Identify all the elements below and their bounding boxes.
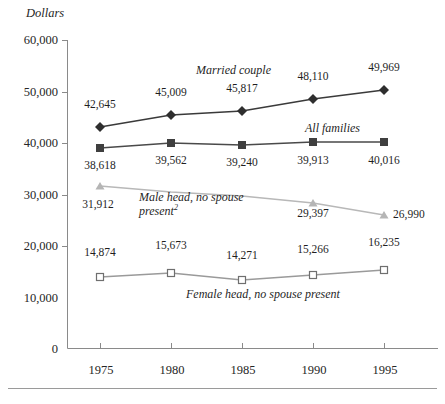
marker-filled-square [309, 138, 317, 146]
marker-filled-square [238, 141, 246, 149]
y-axis-ticks [62, 41, 68, 247]
chart-container: Dollars 60,000 50,000 40,000 30,000 20,0… [0, 0, 445, 404]
value-label-allfamilies-1980: 39,562 [133, 154, 209, 167]
x-tick-label-1985: 1985 [213, 363, 273, 377]
series-annotation-male-head: Male head, no spousepresent2 [139, 191, 259, 219]
value-label-married-1980: 45,009 [133, 86, 209, 99]
y-tick-label-0: 0 [0, 342, 58, 356]
value-label-femalehead-1990: 15,266 [275, 243, 351, 256]
value-label-femalehead-1995: 16,235 [346, 236, 422, 249]
y-tick-label-30000: 30,000 [0, 188, 58, 202]
x-axis-ticks [101, 343, 385, 349]
marker-open-square [310, 272, 317, 279]
marker-filled-diamond [166, 110, 176, 120]
marker-filled-diamond [379, 85, 389, 95]
value-label-allfamilies-1990: 39,913 [275, 154, 351, 167]
value-label-married-1985: 45,817 [204, 82, 280, 95]
y-tick-label-40000: 40,000 [0, 136, 58, 150]
series-female-head [97, 267, 388, 284]
value-label-allfamilies-1975: 38,618 [62, 159, 138, 172]
y-axis-title: Dollars [26, 6, 64, 20]
series-annotation-all-families: All families [305, 122, 360, 135]
y-tick-label-60000: 60,000 [0, 33, 58, 47]
value-label-allfamilies-1995: 40,016 [346, 154, 422, 167]
x-tick-label-1975: 1975 [71, 363, 131, 377]
value-label-femalehead-1975: 14,874 [62, 246, 138, 259]
value-label-malehead-1990: 29,397 [275, 207, 351, 220]
marker-filled-diamond [95, 122, 105, 132]
marker-filled-square [167, 139, 175, 147]
marker-open-square [168, 270, 175, 277]
x-tick-label-1995: 1995 [355, 363, 415, 377]
value-label-femalehead-1985: 14,271 [204, 249, 280, 262]
series-annotation-married-couple: Married couple [196, 64, 271, 77]
marker-filled-diamond [237, 106, 247, 116]
series-annotation-male-head-footnote: 2 [174, 203, 178, 212]
y-tick-label-10000: 10,000 [0, 291, 58, 305]
x-tick-label-1990: 1990 [284, 363, 344, 377]
value-label-femalehead-1980: 15,673 [133, 239, 209, 252]
marker-filled-diamond [308, 94, 318, 104]
series-annotation-female-head: Female head, no spouse present [186, 288, 340, 301]
value-label-malehead-1995: 26,990 [393, 208, 425, 221]
marker-filled-square [96, 144, 104, 152]
value-label-married-1975: 42,645 [62, 98, 138, 111]
series-all-families [96, 138, 388, 152]
y-tick-label-50000: 50,000 [0, 85, 58, 99]
marker-filled-square [380, 138, 388, 146]
marker-open-square [381, 267, 388, 274]
marker-open-square [239, 277, 246, 284]
value-label-malehead-1975: 31,912 [60, 198, 136, 211]
value-label-married-1990: 48,110 [275, 70, 351, 83]
y-tick-label-20000: 20,000 [0, 239, 58, 253]
value-label-allfamilies-1985: 39,240 [204, 156, 280, 169]
value-label-married-1995: 49,969 [346, 61, 422, 74]
marker-open-square [97, 274, 104, 281]
x-tick-label-1980: 1980 [142, 363, 202, 377]
series-annotation-male-head-line1: Male head, no spouse [139, 190, 244, 204]
series-annotation-male-head-line2: present [139, 204, 174, 218]
